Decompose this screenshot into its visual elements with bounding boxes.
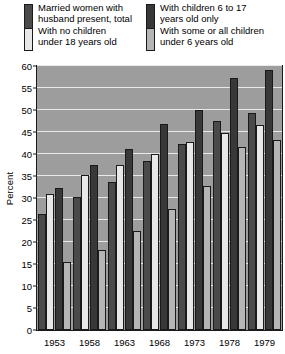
- bar: [186, 142, 194, 330]
- x-tick-label: 1978: [219, 337, 240, 348]
- legend-label-children-under-6-line1: With some or all children: [160, 25, 280, 36]
- x-tick-label: 1968: [149, 337, 170, 348]
- bar: [178, 144, 186, 330]
- bar: [90, 165, 98, 330]
- x-tick-label: 1963: [114, 337, 135, 348]
- legend-label-children-6-to-17-line2: years old only: [160, 13, 280, 24]
- bar: [273, 140, 281, 330]
- x-tick-label: 1973: [184, 337, 205, 348]
- y-tick-label: 55: [2, 83, 32, 94]
- legend-label-total-line2: husband present, total: [38, 13, 158, 24]
- bar: [125, 149, 133, 330]
- y-tick-label: 15: [2, 259, 32, 270]
- bar: [108, 182, 116, 330]
- y-tick-label: 60: [2, 61, 32, 72]
- bar: [160, 124, 168, 330]
- y-tick-label: 20: [2, 237, 32, 248]
- x-axis-labels: 1953195819631968197319781979: [36, 331, 283, 354]
- plot-area: [36, 65, 283, 331]
- legend-entry-total: Married women with husband present, tota…: [38, 2, 158, 25]
- bar: [203, 186, 211, 330]
- legend-swatch-stack-left: [24, 4, 33, 51]
- legend-swatch-total: [25, 5, 32, 28]
- bar: [143, 161, 151, 330]
- bars-container: [37, 66, 282, 330]
- y-tick-label: 50: [2, 105, 32, 116]
- x-tick-label: 1958: [79, 337, 100, 348]
- y-axis-ticks: 051015202530354045505560: [0, 65, 36, 331]
- bar: [38, 214, 46, 330]
- bar: [221, 133, 229, 330]
- legend-labels-right: With children 6 to 17 years old only Wit…: [160, 2, 280, 48]
- bar: [238, 147, 246, 330]
- bar: [230, 78, 238, 330]
- legend-swatch-stack-right: [146, 4, 155, 51]
- legend-entry-children-6-to-17: With children 6 to 17 years old only: [160, 2, 280, 25]
- bar: [256, 125, 264, 330]
- legend-label-children-under-6-line2: under 6 years old: [160, 36, 280, 47]
- x-tick-label: 1979: [254, 337, 275, 348]
- y-tick-label: 30: [2, 193, 32, 204]
- bar: [55, 188, 63, 330]
- bar: [195, 110, 203, 330]
- legend-swatch-children-under-6: [147, 28, 154, 51]
- legend-label-no-children-line2: under 18 years old: [38, 36, 158, 47]
- bar: [98, 250, 106, 330]
- bar: [168, 209, 176, 330]
- chart-legend: Married women with husband present, tota…: [0, 0, 285, 57]
- bar-chart: Percent 051015202530354045505560 1953195…: [0, 57, 285, 354]
- legend-entry-children-under-6: With some or all children under 6 years …: [160, 25, 280, 48]
- bar: [63, 262, 71, 330]
- bar: [151, 154, 159, 330]
- y-tick-label: 10: [2, 281, 32, 292]
- bar: [248, 113, 256, 330]
- y-tick-label: 5: [2, 303, 32, 314]
- y-tick-label: 35: [2, 171, 32, 182]
- y-tick-label: 45: [2, 127, 32, 138]
- x-tick-label: 1953: [44, 337, 65, 348]
- legend-label-no-children-line1: With no children: [38, 25, 158, 36]
- y-tick-label: 40: [2, 149, 32, 160]
- legend-entry-no-children: With no children under 18 years old: [38, 25, 158, 48]
- bar: [46, 194, 54, 330]
- bar: [73, 197, 81, 330]
- y-tick-label: 25: [2, 215, 32, 226]
- bar: [133, 231, 141, 330]
- bar: [265, 70, 273, 330]
- y-tick-label: 0: [2, 325, 32, 336]
- bar: [81, 175, 89, 330]
- legend-label-total-line1: Married women with: [38, 2, 158, 13]
- legend-swatch-children-6-to-17: [147, 5, 154, 28]
- bar: [213, 121, 221, 330]
- bar: [116, 165, 124, 330]
- legend-labels-left: Married women with husband present, tota…: [38, 2, 158, 48]
- legend-swatch-no-children: [25, 28, 32, 51]
- legend-label-children-6-to-17-line1: With children 6 to 17: [160, 2, 280, 13]
